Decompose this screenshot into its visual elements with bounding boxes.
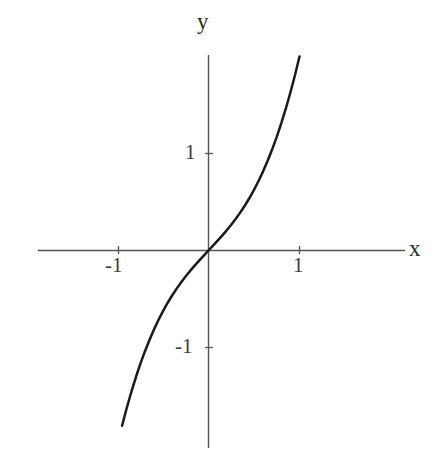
- plot-canvas: [0, 0, 441, 453]
- y-tick-label-positive-one: 1: [185, 142, 196, 163]
- axes-group: [38, 55, 405, 448]
- y-axis-title: y: [197, 10, 209, 33]
- curve-cubic-line: [122, 57, 299, 426]
- x-axis-title: x: [409, 237, 421, 260]
- y-tick-label-negative-one: -1: [175, 336, 193, 357]
- x-tick-label-positive-one: 1: [293, 255, 304, 276]
- data-series-group: [122, 57, 299, 426]
- x-tick-label-negative-one: -1: [105, 255, 123, 276]
- plot-figure: y x 1 -1 -1 1: [0, 0, 441, 453]
